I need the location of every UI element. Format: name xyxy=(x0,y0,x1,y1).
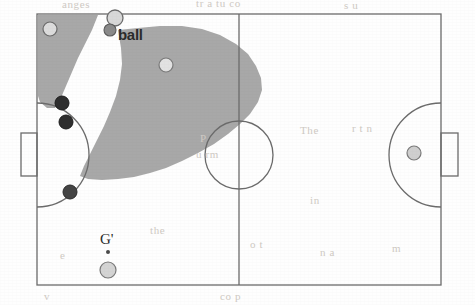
shaded-main-region xyxy=(80,26,262,180)
goalkeeper-label: G' xyxy=(100,231,114,248)
right-goal xyxy=(441,133,458,176)
light-player-top-left xyxy=(43,22,57,36)
right-goalkeeper-marker xyxy=(407,146,421,160)
field-svg xyxy=(0,0,475,305)
light-player-center-left xyxy=(159,58,173,72)
ball-small-marker xyxy=(104,24,116,36)
diagram-canvas: anges tr a tu co s u The r t n P u rm in… xyxy=(0,0,475,305)
dark-player-middle xyxy=(59,115,73,129)
ball-label: ball xyxy=(118,26,143,43)
goalkeeper-dot xyxy=(106,250,110,254)
left-goal xyxy=(21,133,37,176)
shaded-coverage-group xyxy=(38,15,262,180)
dark-player-upper xyxy=(55,96,69,110)
goalkeeper-marker xyxy=(100,262,116,278)
dark-player-lower xyxy=(63,185,77,199)
